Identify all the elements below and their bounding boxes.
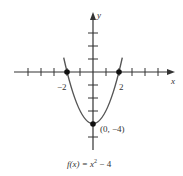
y-axis-arrow-icon — [90, 12, 96, 20]
vertex-label: (0, −4) — [100, 124, 125, 134]
point-x-intercept-neg — [64, 69, 70, 75]
function-caption: f(x) = x2 − 4 — [67, 158, 112, 169]
x-neg-label: −2 — [57, 82, 67, 92]
x-axis-label: x — [170, 76, 175, 86]
function-graph: y x −2 2 (0, −4) f(x) = x2 − 4 — [0, 0, 183, 176]
caption-rhs: − 4 — [97, 159, 112, 169]
point-x-intercept-pos — [116, 69, 122, 75]
caption-lhs: f(x) = x — [67, 159, 94, 169]
x-axis-arrow-icon — [167, 69, 175, 75]
point-vertex — [90, 121, 96, 127]
x-pos-label: 2 — [119, 82, 124, 92]
y-axis-label: y — [96, 10, 101, 20]
